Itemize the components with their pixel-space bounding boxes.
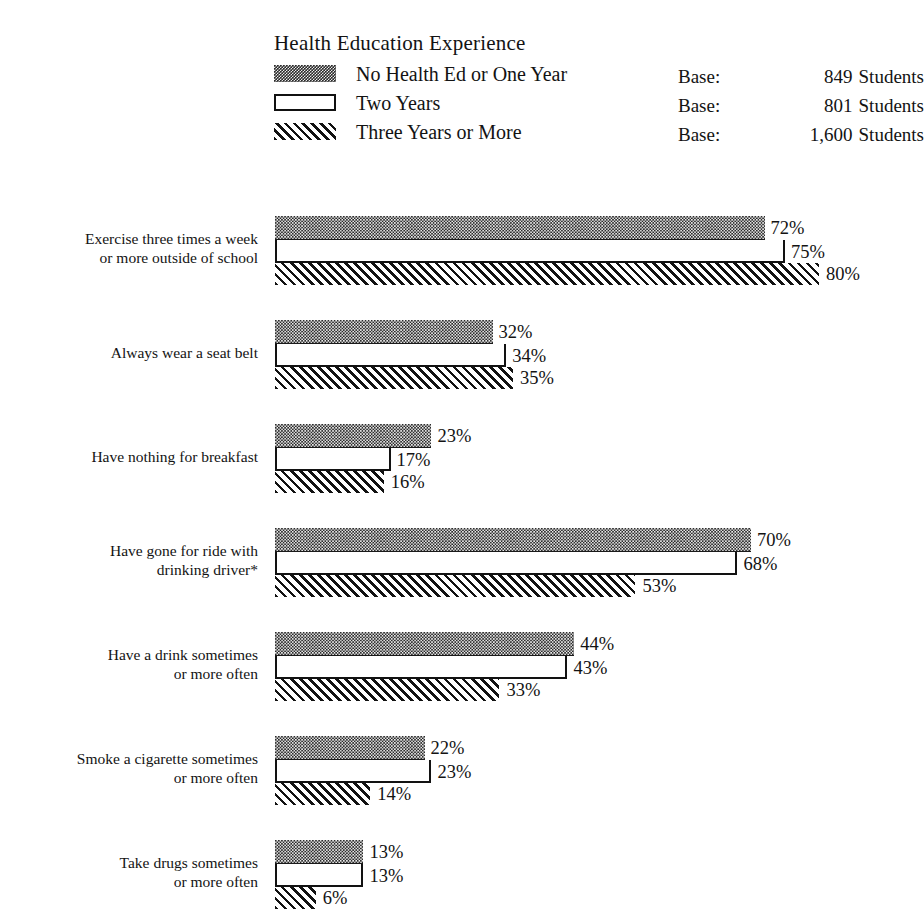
bar[interactable]: [275, 367, 513, 389]
bar-value-label: 68%: [737, 554, 777, 573]
bar-value-label: 75%: [785, 242, 825, 261]
bar[interactable]: [275, 575, 635, 597]
bar-group: Exercise three times a week or more outs…: [0, 196, 920, 300]
base-number: 849: [824, 66, 853, 87]
bar[interactable]: [275, 760, 431, 783]
base-number: 1,600: [810, 124, 853, 145]
base-count: 1,600Students: [738, 125, 924, 145]
category-label: Take drugs sometimes or more often: [8, 853, 258, 891]
bar-value-label: 14%: [370, 785, 411, 804]
bar[interactable]: [275, 448, 391, 471]
base-word: Base:: [678, 125, 738, 145]
base-word: Base:: [678, 67, 738, 87]
bar-value-label: 33%: [499, 681, 540, 700]
bar-value-label: 17%: [391, 450, 431, 469]
bar-value-label: 44%: [574, 635, 614, 654]
bar[interactable]: [275, 528, 751, 552]
bar[interactable]: [275, 864, 363, 887]
bar-value-label: 72%: [765, 219, 805, 238]
base-word: Base:: [678, 96, 738, 116]
legend-series-label: Three Years or More: [336, 122, 522, 142]
bar-value-label: 13%: [363, 843, 403, 862]
bar[interactable]: [275, 679, 499, 701]
base-suffix: Students: [853, 66, 924, 87]
bar-value-label: 16%: [384, 473, 425, 492]
bar-group: Take drugs sometimes or more often13%13%…: [0, 820, 920, 922]
bar-value-label: 32%: [493, 323, 533, 342]
bar-value-label: 80%: [819, 265, 860, 284]
bar[interactable]: [275, 424, 431, 448]
legend-row: No Health Ed or One Year Base: 849Studen…: [274, 59, 914, 88]
bar[interactable]: [275, 783, 370, 805]
legend-series-label: Two Years: [336, 93, 440, 113]
category-label: Always wear a seat belt: [8, 343, 258, 362]
bar-value-label: 13%: [363, 866, 403, 885]
legend-base-row: Base: 801Students: [678, 96, 924, 116]
bar-group: Have gone for ride with drinking driver*…: [0, 508, 920, 612]
bar[interactable]: [275, 840, 363, 864]
legend-title: Health Education Experience: [274, 30, 914, 56]
bar-value-label: 23%: [431, 762, 471, 781]
bar[interactable]: [275, 471, 384, 493]
bar-group: Always wear a seat belt32%34%35%: [0, 300, 920, 404]
legend-base-row: Base: 849Students: [678, 67, 924, 87]
category-label: Have gone for ride with drinking driver*: [8, 541, 258, 579]
bar[interactable]: [275, 552, 737, 575]
base-count: 801Students: [738, 96, 924, 116]
bar-value-label: 6%: [316, 889, 348, 908]
bar-value-label: 43%: [567, 658, 607, 677]
bar[interactable]: [275, 240, 785, 263]
bar[interactable]: [275, 263, 819, 285]
bar[interactable]: [275, 887, 316, 909]
bar-groups: Exercise three times a week or more outs…: [0, 196, 920, 922]
bar-value-label: 53%: [635, 577, 676, 596]
bar[interactable]: [275, 216, 765, 240]
category-label: Smoke a cigarette sometimes or more ofte…: [8, 749, 258, 787]
bar-group: Smoke a cigarette sometimes or more ofte…: [0, 716, 920, 820]
category-label: Have a drink sometimes or more often: [8, 645, 258, 683]
checkerboard-swatch: [274, 65, 336, 82]
bar[interactable]: [275, 344, 506, 367]
bar-value-label: 35%: [513, 369, 554, 388]
base-count: 849Students: [738, 67, 924, 87]
chart-legend: Health Education Experience No Health Ed…: [274, 30, 914, 146]
bar-group: Have a drink sometimes or more often44%4…: [0, 612, 920, 716]
bar-value-label: 34%: [506, 346, 546, 365]
base-suffix: Students: [853, 95, 924, 116]
legend-series-label: No Health Ed or One Year: [336, 64, 567, 84]
bar[interactable]: [275, 736, 425, 760]
bar-value-label: 22%: [425, 739, 465, 758]
legend-row: Two Years Base: 801Students: [274, 88, 914, 117]
bar-group: Have nothing for breakfast23%17%16%: [0, 404, 920, 508]
diagonal-hatch-swatch: [274, 123, 336, 140]
legend-rows: No Health Ed or One Year Base: 849Studen…: [274, 59, 914, 146]
bar[interactable]: [275, 632, 574, 656]
open-rectangle-swatch: [274, 94, 336, 111]
base-suffix: Students: [853, 124, 924, 145]
legend-base-row: Base: 1,600Students: [678, 125, 924, 145]
base-number: 801: [824, 95, 853, 116]
category-label: Exercise three times a week or more outs…: [8, 229, 258, 267]
bar[interactable]: [275, 320, 493, 344]
bar[interactable]: [275, 656, 567, 679]
bar-value-label: 70%: [751, 531, 791, 550]
legend-row: Three Years or More Base: 1,600Students: [274, 117, 914, 146]
bar-value-label: 23%: [431, 427, 471, 446]
category-label: Have nothing for breakfast: [8, 447, 258, 466]
